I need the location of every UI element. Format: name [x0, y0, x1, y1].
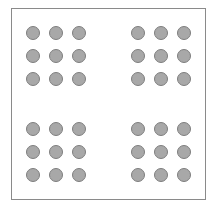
circle-icon	[49, 49, 63, 63]
circle-icon	[154, 145, 168, 159]
circle-icon	[72, 26, 86, 40]
circle-icon	[177, 26, 191, 40]
circle-icon	[49, 26, 63, 40]
circle-icon	[177, 122, 191, 136]
circle-icon	[26, 49, 40, 63]
circle-icon	[154, 49, 168, 63]
circle-icon	[131, 26, 145, 40]
circle-icon	[177, 168, 191, 182]
circle-icon	[177, 49, 191, 63]
circle-icon	[177, 72, 191, 86]
circle-icon	[131, 72, 145, 86]
circle-icon	[49, 122, 63, 136]
circle-icon	[72, 145, 86, 159]
circle-icon	[26, 72, 40, 86]
circle-icon	[131, 49, 145, 63]
circle-icon	[49, 145, 63, 159]
circle-icon	[72, 49, 86, 63]
circle-icon	[26, 26, 40, 40]
circle-icon	[72, 168, 86, 182]
circle-icon	[177, 145, 191, 159]
circle-icon	[72, 72, 86, 86]
circle-icon	[26, 168, 40, 182]
circle-icon	[154, 122, 168, 136]
circle-icon	[131, 122, 145, 136]
circle-icon	[154, 72, 168, 86]
circle-icon	[131, 168, 145, 182]
circle-icon	[49, 72, 63, 86]
circle-icon	[49, 168, 63, 182]
circle-icon	[131, 145, 145, 159]
circle-icon	[154, 168, 168, 182]
circle-icon	[154, 26, 168, 40]
circle-icon	[26, 122, 40, 136]
circle-icon	[26, 145, 40, 159]
circle-icon	[72, 122, 86, 136]
